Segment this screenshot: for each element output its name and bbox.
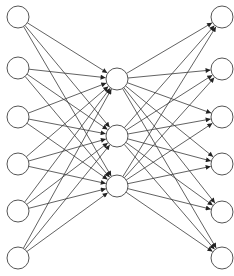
- output-node-6: [211, 247, 233, 269]
- edge-input-5-to-hidden-2: [27, 193, 108, 252]
- edge-hidden-0-to-output-0: [127, 23, 213, 74]
- edge-hidden-2-to-output-0: [123, 27, 216, 177]
- edge-input-0-to-hidden-0: [27, 23, 107, 73]
- output-node-4: [211, 153, 233, 175]
- neural-network-diagram: [0, 0, 234, 276]
- edge-input-5-to-hidden-0: [23, 89, 111, 248]
- hidden-node-2: [106, 125, 128, 147]
- edge-hidden-0-to-output-4: [124, 88, 215, 203]
- edge-hidden-1-to-output-1: [126, 75, 212, 130]
- input-node-6: [7, 247, 29, 269]
- output-node-5: [211, 201, 233, 223]
- edge-hidden-2-to-output-3: [128, 166, 211, 183]
- edge-input-0-to-hidden-2: [24, 27, 112, 177]
- input-node-3: [7, 106, 29, 128]
- input-node-5: [7, 200, 29, 222]
- input-node-2: [7, 57, 29, 79]
- input-node-1: [7, 6, 29, 28]
- edge-hidden-2-to-output-1: [124, 78, 214, 178]
- output-node-3: [211, 106, 233, 128]
- edge-input-5-to-hidden-1: [25, 145, 110, 250]
- edge-hidden-0-to-output-3: [126, 86, 214, 157]
- edge-input-3-to-hidden-1: [29, 139, 106, 161]
- edge-input-4-to-hidden-0: [25, 88, 111, 202]
- edge-input-4-to-hidden-1: [27, 143, 108, 205]
- input-node-4: [7, 153, 29, 175]
- output-node-2: [211, 58, 233, 80]
- output-node-1: [211, 6, 233, 28]
- hidden-node-1: [106, 68, 128, 90]
- edge-hidden-1-to-output-3: [128, 139, 211, 161]
- edge-hidden-2-to-output-5: [126, 192, 212, 251]
- hidden-node-3: [106, 175, 128, 197]
- edge-input-4-to-hidden-2: [29, 189, 106, 209]
- edge-hidden-2-to-output-4: [128, 189, 211, 210]
